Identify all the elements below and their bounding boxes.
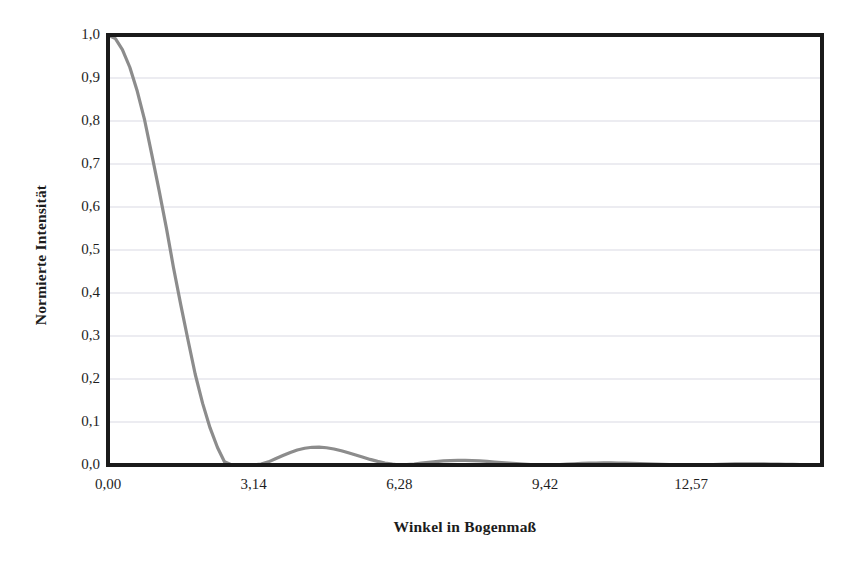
x-axis-title: Winkel in Bogenmaß [108, 518, 822, 536]
plot-area [0, 0, 850, 575]
chart-figure: Normierte Intensität 0,00,10,20,30,40,50… [0, 0, 850, 575]
gridlines [108, 78, 822, 422]
